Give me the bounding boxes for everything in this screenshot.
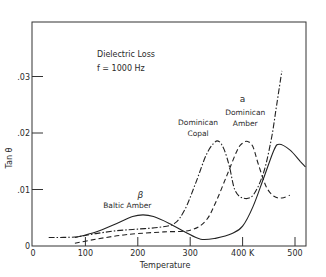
annotation-label: β [137,190,144,200]
x-tick-label: 300 [183,249,198,258]
annotation-label: Baltic Amber [103,201,152,210]
x-tick-label: 500 [287,249,302,258]
x-tick-label: 400 K [231,249,255,258]
y-tick-label: 0 [25,242,30,251]
x-tick-label: 200 [130,249,145,258]
y-tick-label: .03 [17,73,30,82]
annotation-label: Dominican [178,118,218,127]
x-tick-label: 100 [78,249,93,258]
x-axis-label: Temperature [139,261,191,270]
chart-background [0,0,326,277]
annotation-label: Copal [187,129,208,138]
x-tick-label: 0 [30,249,35,258]
y-axis-label: Tan θ [5,147,14,169]
dielectric-loss-chart: 0100200300400 K500 0.01.02.03 Temperatur… [0,0,326,277]
y-tick-label: .02 [17,129,30,138]
annotation-label: Dominican [225,108,265,117]
annotation-label: Amber [233,119,259,128]
chart-title: Dielectric Loss [97,50,155,59]
chart-subtitle: f = 1000 Hz [97,64,145,73]
y-tick-label: .01 [17,186,30,195]
annotation-label: a [240,94,246,104]
